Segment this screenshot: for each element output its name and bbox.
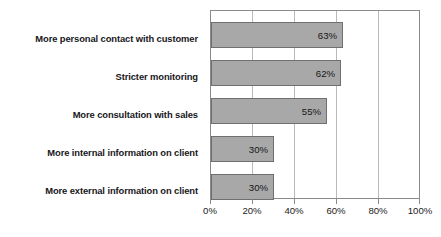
category-label: More internal information on client — [0, 147, 198, 158]
x-axis-tick-marks — [210, 199, 420, 204]
bar-series-item: 30% — [211, 174, 274, 200]
tick-mark — [419, 199, 420, 204]
bar-value-label: 63% — [318, 30, 337, 41]
plot-area: 63% 62% 55% 30% 30% — [210, 10, 420, 199]
bars-layer: 63% 62% 55% 30% 30% — [211, 11, 419, 198]
bar-value-label: 30% — [249, 144, 268, 155]
category-axis-labels: More personal contact with customer Stri… — [0, 10, 204, 199]
bar-chart: More personal contact with customer Stri… — [0, 0, 441, 237]
bar-value-label: 30% — [249, 182, 268, 193]
tick-mark — [294, 199, 295, 204]
bar-series-item: 62% — [211, 60, 341, 86]
bar-series-item: 55% — [211, 98, 327, 124]
tick-mark — [336, 199, 337, 204]
category-label: More personal contact with customer — [0, 33, 198, 44]
bar-series-item: 63% — [211, 22, 343, 48]
category-label: More consultation with sales — [0, 109, 198, 120]
x-tick-label: 60% — [326, 205, 345, 216]
x-tick-label: 20% — [242, 205, 261, 216]
bar-series-item: 30% — [211, 136, 274, 162]
x-tick-label: 40% — [284, 205, 303, 216]
x-tick-label: 100% — [408, 205, 433, 216]
category-label: Stricter monitoring — [0, 71, 198, 82]
x-tick-label: 80% — [368, 205, 387, 216]
tick-mark — [252, 199, 253, 204]
x-axis-tick-labels: 0% 20% 40% 60% 80% 100% — [210, 205, 420, 221]
tick-mark — [378, 199, 379, 204]
bar-value-label: 55% — [302, 106, 321, 117]
tick-mark — [210, 199, 211, 204]
bar-value-label: 62% — [316, 68, 335, 79]
x-tick-label: 0% — [203, 205, 217, 216]
category-label: More external information on client — [0, 185, 198, 196]
